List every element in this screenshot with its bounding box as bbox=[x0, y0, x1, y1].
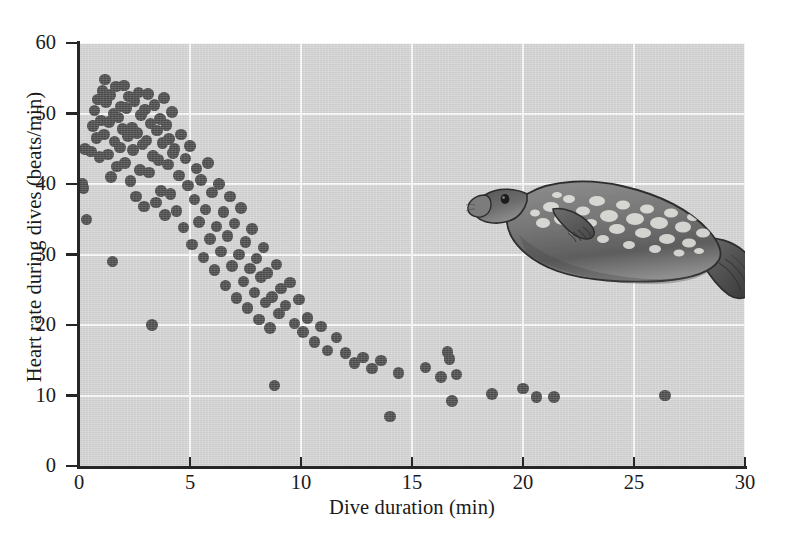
data-point bbox=[81, 214, 93, 226]
y-axis-tick bbox=[66, 42, 78, 45]
data-point bbox=[435, 371, 447, 383]
data-point bbox=[119, 157, 131, 169]
data-point bbox=[105, 171, 117, 183]
data-point bbox=[486, 388, 498, 400]
x-axis-tick bbox=[633, 457, 636, 469]
data-point bbox=[162, 159, 174, 171]
data-point bbox=[531, 391, 543, 403]
data-point bbox=[118, 80, 130, 92]
data-point bbox=[229, 218, 241, 230]
x-axis-tick-label: 20 bbox=[493, 472, 553, 493]
x-axis-tick-label: 0 bbox=[49, 472, 109, 493]
data-point bbox=[420, 362, 432, 374]
data-point bbox=[293, 294, 305, 306]
y-axis-tick-label: 40 bbox=[8, 173, 56, 194]
data-point bbox=[158, 92, 170, 104]
data-point bbox=[220, 280, 232, 292]
data-point bbox=[233, 249, 245, 261]
data-point bbox=[184, 140, 196, 152]
x-axis-tick-label: 25 bbox=[604, 472, 664, 493]
data-point bbox=[113, 112, 125, 124]
data-point bbox=[231, 292, 243, 304]
plot-area bbox=[79, 43, 745, 466]
y-axis-tick-label: 30 bbox=[8, 244, 56, 265]
data-point bbox=[384, 411, 396, 423]
data-point bbox=[322, 345, 334, 357]
data-point bbox=[357, 352, 369, 364]
data-point bbox=[186, 239, 198, 251]
data-point bbox=[393, 367, 405, 379]
data-point bbox=[198, 252, 210, 264]
data-point bbox=[302, 312, 314, 324]
data-point bbox=[340, 347, 352, 359]
data-point bbox=[191, 163, 203, 175]
gridline-vertical bbox=[522, 43, 524, 466]
data-point bbox=[271, 259, 283, 271]
x-axis-tick-label: 15 bbox=[382, 472, 442, 493]
data-point bbox=[242, 302, 254, 314]
data-point bbox=[195, 174, 207, 186]
seal-illustration bbox=[457, 161, 745, 321]
data-point bbox=[138, 201, 150, 213]
data-point bbox=[659, 390, 671, 402]
x-axis-tick bbox=[300, 457, 303, 469]
data-point bbox=[251, 253, 263, 265]
data-point bbox=[548, 391, 560, 403]
data-point bbox=[315, 321, 327, 333]
data-point bbox=[169, 143, 181, 155]
data-point bbox=[143, 167, 155, 179]
data-point bbox=[79, 182, 89, 194]
data-point bbox=[215, 246, 227, 258]
data-point bbox=[222, 230, 234, 242]
data-point bbox=[142, 88, 154, 100]
data-point bbox=[444, 353, 456, 365]
gridline-vertical bbox=[744, 43, 745, 466]
x-axis-tick bbox=[522, 457, 525, 469]
data-point bbox=[175, 129, 187, 141]
data-point bbox=[238, 276, 250, 288]
data-point bbox=[258, 242, 270, 254]
data-point bbox=[517, 383, 529, 395]
data-point bbox=[200, 204, 212, 216]
gridline-vertical bbox=[633, 43, 635, 466]
data-point bbox=[284, 277, 296, 289]
data-point bbox=[165, 188, 177, 200]
x-axis-title: Dive duration (min) bbox=[79, 496, 745, 519]
data-point bbox=[235, 202, 247, 214]
data-point bbox=[218, 206, 230, 218]
data-point bbox=[240, 236, 252, 248]
x-axis-tick bbox=[411, 457, 414, 469]
data-point bbox=[262, 267, 274, 279]
data-point bbox=[146, 319, 158, 331]
data-point bbox=[253, 314, 265, 326]
y-axis-tick-label: 60 bbox=[8, 32, 56, 53]
data-point bbox=[202, 157, 214, 169]
data-point bbox=[224, 191, 236, 203]
x-axis-tick-label: 10 bbox=[271, 472, 331, 493]
y-axis-tick-label: 50 bbox=[8, 103, 56, 124]
data-point bbox=[297, 326, 309, 338]
data-point bbox=[141, 135, 153, 147]
data-point bbox=[249, 287, 261, 299]
y-axis-tick-label: 10 bbox=[8, 385, 56, 406]
y-axis-tick bbox=[66, 394, 78, 397]
y-axis-tick bbox=[66, 253, 78, 256]
x-axis-tick-label: 5 bbox=[160, 472, 220, 493]
data-point bbox=[451, 369, 463, 381]
data-point bbox=[446, 395, 458, 407]
data-point bbox=[102, 149, 114, 161]
data-point bbox=[246, 223, 258, 235]
x-axis-tick-label: 30 bbox=[715, 472, 775, 493]
data-point bbox=[213, 178, 225, 190]
data-point bbox=[269, 380, 281, 392]
data-point bbox=[114, 142, 126, 154]
data-point bbox=[209, 264, 221, 276]
gridline-vertical bbox=[300, 43, 302, 466]
gridline-vertical bbox=[411, 43, 413, 466]
gridline-vertical bbox=[189, 43, 191, 466]
data-point bbox=[98, 129, 110, 141]
data-point bbox=[331, 332, 343, 344]
x-axis-tick bbox=[189, 457, 192, 469]
y-axis-tick-label: 20 bbox=[8, 314, 56, 335]
y-axis-tick bbox=[66, 183, 78, 186]
